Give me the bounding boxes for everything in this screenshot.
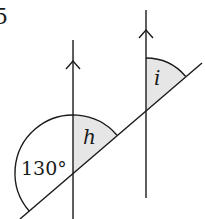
angle-130-label: 130° — [21, 157, 67, 179]
angle-i-shade — [146, 58, 186, 110]
angle-h-label: h — [83, 125, 96, 149]
transversal-line — [20, 63, 202, 219]
question-number-partial: 5 — [0, 4, 8, 29]
angle-diagram: 5 130° h i — [0, 0, 205, 219]
angle-i-label: i — [154, 66, 160, 90]
